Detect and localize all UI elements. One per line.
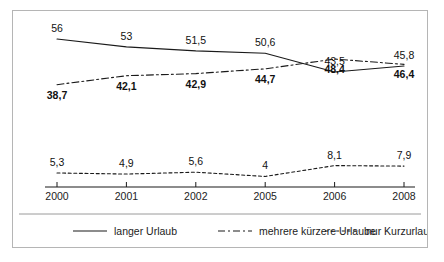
series-line-1 bbox=[57, 59, 404, 85]
chart-figure: 565351,550,643,545,838,742,142,944,748,4… bbox=[12, 10, 428, 248]
data-label: 50,6 bbox=[255, 36, 276, 48]
data-label: 38,7 bbox=[47, 89, 68, 101]
x-axis-ticks bbox=[57, 182, 404, 187]
x-tick-label-2002: 2002 bbox=[184, 190, 208, 202]
data-label: 42,9 bbox=[186, 78, 207, 90]
series-line-2 bbox=[57, 166, 404, 177]
legend-label-0: langer Urlaub bbox=[114, 225, 177, 237]
data-label: 48,4 bbox=[324, 63, 345, 75]
x-axis-tick-labels: 200020012002200520062008 bbox=[45, 190, 416, 202]
line-chart-plot: 565351,550,643,545,838,742,142,944,748,4… bbox=[13, 11, 427, 247]
data-label: 5,6 bbox=[188, 155, 203, 167]
data-label: 46,4 bbox=[394, 68, 415, 80]
x-tick-label-2000: 2000 bbox=[45, 190, 69, 202]
data-label: 56 bbox=[51, 22, 63, 34]
legend-label-1: mehrere kürzere Urlaube bbox=[259, 225, 376, 237]
data-label: 4,9 bbox=[119, 157, 134, 169]
data-label: 42,1 bbox=[116, 80, 137, 92]
data-label: 51,5 bbox=[186, 34, 207, 46]
chart-legend: langer Urlaubmehrere kürzere Urlaubenur … bbox=[73, 225, 427, 237]
data-label: 53 bbox=[121, 30, 133, 42]
data-label: 45,8 bbox=[394, 49, 415, 61]
x-tick-label-2005: 2005 bbox=[254, 190, 278, 202]
series-layer bbox=[57, 39, 404, 176]
x-tick-label-2001: 2001 bbox=[115, 190, 139, 202]
legend-label-2: nur Kurzurlaube bbox=[366, 225, 427, 237]
data-label: 4 bbox=[262, 159, 268, 171]
series-line-0 bbox=[57, 39, 404, 72]
x-tick-label-2006: 2006 bbox=[323, 190, 347, 202]
data-label: 5,3 bbox=[50, 156, 65, 168]
data-label: 44,7 bbox=[255, 73, 276, 85]
data-label: 7,9 bbox=[397, 149, 412, 161]
data-label: 8,1 bbox=[327, 149, 342, 161]
x-tick-label-2008: 2008 bbox=[392, 190, 416, 202]
